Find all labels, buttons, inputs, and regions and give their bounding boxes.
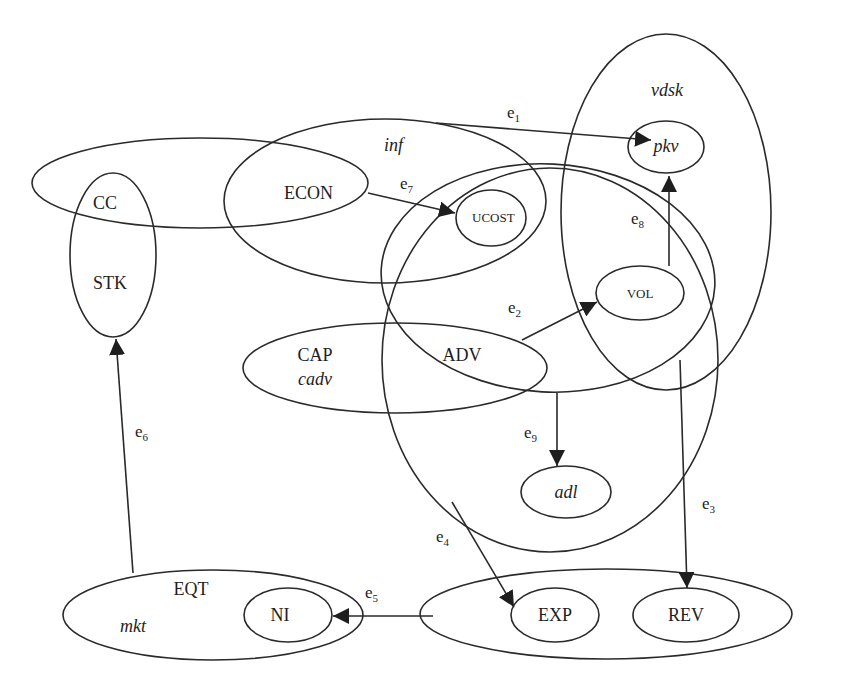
- node-label-exp: EXP: [538, 605, 572, 625]
- edge-label-e7: e7: [400, 174, 414, 195]
- node-label-adl: adl: [554, 482, 577, 502]
- edge-label-e6: e6: [135, 422, 149, 443]
- node-label-ucost: UCOST: [472, 210, 515, 225]
- node-label-cadv: cadv: [298, 369, 332, 389]
- node-label-cc: CC: [93, 193, 117, 213]
- node-label-pkv: pkv: [652, 136, 679, 156]
- edge-label-e9: e9: [524, 423, 538, 444]
- hypergraph-diagram: CC STK ECON inf UCOST pkv vdsk VOL CAP c…: [0, 0, 843, 685]
- node-label-vdsk: vdsk: [651, 80, 684, 100]
- node-label-eqt: EQT: [174, 579, 209, 599]
- exp-rev-group: [420, 569, 792, 659]
- node-label-mkt: mkt: [120, 616, 147, 636]
- node-label-adv: ADV: [443, 345, 482, 365]
- edge-e2: [522, 302, 597, 340]
- edge-label-e3: e3: [702, 494, 716, 515]
- edge-label-e4: e4: [436, 527, 450, 548]
- node-label-rev: REV: [668, 605, 704, 625]
- node-label-cap: CAP: [297, 345, 332, 365]
- edge-label-e8: e8: [631, 209, 645, 230]
- edge-e6: [116, 339, 133, 573]
- edge-label-e1: e1: [507, 103, 520, 124]
- node-label-stk: STK: [93, 273, 127, 293]
- node-label-vol: VOL: [627, 286, 654, 301]
- node-label-ni: NI: [271, 605, 290, 625]
- cap-adv-group: [243, 323, 547, 413]
- edge-e7: [368, 193, 455, 213]
- eqt-group: [63, 570, 363, 660]
- edge-e4: [452, 502, 514, 607]
- edge-label-e5: e5: [365, 583, 379, 604]
- edge-label-e2: e2: [508, 298, 521, 319]
- node-label-inf: inf: [384, 135, 406, 155]
- node-label-econ: ECON: [284, 183, 333, 203]
